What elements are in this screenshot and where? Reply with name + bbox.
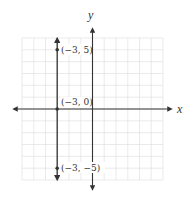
point-bottom: [55, 166, 59, 170]
x-axis-label: x: [176, 102, 183, 116]
point-label-top: (−3, 5): [61, 45, 93, 55]
coordinate-plane: x y (−3, 5) (−3, 0) (−3, −5): [0, 0, 196, 197]
point-label-bottom: (−3, −5): [61, 163, 100, 173]
point-middle: [55, 107, 59, 111]
point-label-middle: (−3, 0): [61, 97, 93, 107]
point-top: [55, 48, 59, 52]
y-axis-label: y: [87, 8, 94, 22]
